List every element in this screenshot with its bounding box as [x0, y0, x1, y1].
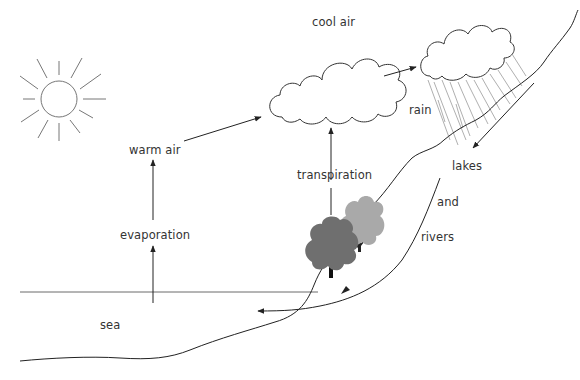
warm-air-to-cloud-arrow [184, 117, 261, 141]
label-transpiration: transpiration [297, 168, 372, 182]
label-rivers: rivers [421, 230, 454, 244]
rain-cloud [421, 26, 515, 81]
river-arrow-mid [341, 286, 350, 294]
cloud [270, 59, 406, 124]
water-cycle-diagram [0, 0, 580, 380]
label-warm-air: warm air [129, 143, 181, 157]
label-and: and [437, 195, 459, 209]
label-cool-air: cool air [312, 15, 355, 29]
label-evaporation: evaporation [120, 228, 190, 242]
sun-icon [20, 58, 106, 141]
tree-dark [305, 217, 358, 278]
label-sea: sea [100, 318, 120, 332]
label-lakes: lakes [452, 159, 482, 173]
label-rain: rain [409, 103, 432, 117]
